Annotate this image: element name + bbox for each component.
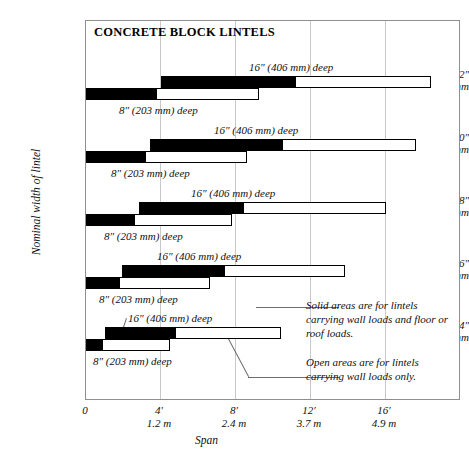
bar-segment-open — [244, 202, 386, 214]
annotation-solid-areas: Solid areas are for lintels carrying wal… — [306, 299, 458, 340]
bar-label-8deep-8in: 8″ (203 mm) deep — [104, 230, 183, 242]
x-tick-label-8ft: 8′ 2.4 m — [199, 404, 269, 430]
chart-title: CONCRETE BLOCK LINTELS — [94, 25, 284, 40]
bar-segment-open — [157, 88, 259, 100]
bar-segment-open — [103, 339, 170, 351]
x-axis-title: Span — [195, 434, 218, 446]
plot-area: CONCRETE BLOCK LINTELS 16″ (406 mm) deep… — [85, 20, 460, 400]
bar-label-16deep-8in: 16″ (406 mm) deep — [191, 187, 275, 199]
x-tick-label-0: 0 — [50, 404, 120, 417]
bar-8deep-12in — [86, 88, 259, 100]
bar-segment-solid — [161, 76, 296, 88]
bar-8deep-10in — [86, 151, 247, 163]
bar-segment-open — [120, 277, 210, 289]
x-tick-label-12ft: 12′ 3.7 m — [274, 404, 344, 430]
bar-segment-open — [176, 327, 281, 339]
bar-16deep-4in — [105, 327, 281, 339]
bar-label-8deep-6in: 8″ (203 mm) deep — [99, 293, 178, 305]
bar-segment-solid — [86, 277, 120, 289]
bar-segment-solid — [86, 339, 103, 351]
bar-segment-solid — [86, 151, 146, 163]
bar-segment-solid — [139, 202, 244, 214]
x-tick-label-16ft: 16′ 4.9 m — [349, 404, 419, 430]
bar-segment-open — [146, 151, 247, 163]
bar-segment-open — [135, 214, 232, 226]
bar-segment-open — [296, 76, 431, 88]
bar-segment-solid — [86, 214, 135, 226]
bar-16deep-6in — [122, 265, 345, 277]
bar-segment-solid — [150, 139, 283, 151]
bar-segment-solid — [86, 88, 157, 100]
bar-segment-open — [225, 265, 345, 277]
leader-line-open-note-diagonal — [228, 339, 249, 377]
x-tick-label-4ft: 4′ 1.2 m — [124, 404, 194, 430]
bar-16deep-10in — [150, 139, 416, 151]
bar-label-16deep-6in: 16″ (406 mm) deep — [157, 250, 241, 262]
bar-segment-open — [283, 139, 416, 151]
bar-segment-solid — [105, 327, 176, 339]
bar-8deep-4in — [86, 339, 170, 351]
bar-8deep-8in — [86, 214, 232, 226]
annotation-open-areas: Open areas are for lintels carrying wall… — [306, 356, 458, 384]
bar-label-8deep-4in: 8″ (203 mm) deep — [93, 355, 172, 367]
concrete-block-lintels-chart: Nominal width of lintel 12″ 305 mm 10″ 2… — [0, 0, 469, 457]
bar-8deep-6in — [86, 277, 210, 289]
bar-label-8deep-12in: 8″ (203 mm) deep — [119, 104, 198, 116]
bar-label-8deep-10in: 8″ (203 mm) deep — [111, 167, 190, 179]
bar-16deep-12in — [161, 76, 431, 88]
bar-segment-solid — [122, 265, 225, 277]
bar-label-16deep-4in: 16″ (406 mm) deep — [128, 312, 212, 324]
bar-label-16deep-12in: 16″ (406 mm) deep — [249, 61, 333, 73]
y-axis-title: Nominal width of lintel — [30, 122, 42, 282]
bar-label-16deep-10in: 16″ (406 mm) deep — [214, 124, 298, 136]
bar-16deep-8in — [139, 202, 386, 214]
